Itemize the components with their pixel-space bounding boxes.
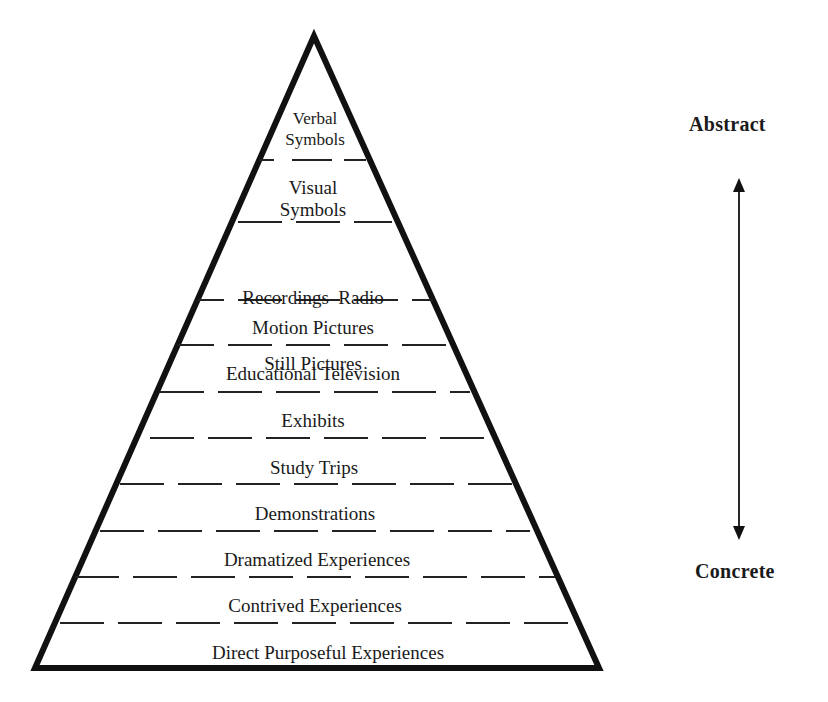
level-label-line: Demonstrations (255, 503, 375, 525)
abstract-label: Abstract (689, 113, 766, 136)
level-label-line: Visual (280, 177, 347, 199)
level-label-line: Study Trips (270, 457, 358, 479)
level-verbal-symbols: Verbal Symbols (285, 108, 345, 150)
level-label-line: Symbols (280, 199, 347, 221)
arrow-up-icon (733, 178, 745, 192)
level-label-line: Dramatized Experiences (224, 549, 410, 571)
level-label-line: Educational Television (226, 363, 400, 385)
concrete-label: Concrete (695, 560, 775, 583)
level-label-line: Motion Pictures (252, 317, 374, 339)
level-label-line: Exhibits (281, 410, 344, 432)
level-study-trips: Study Trips (270, 457, 358, 479)
level-label-line: Contrived Experiences (228, 595, 402, 617)
arrow-down-icon (733, 526, 745, 540)
level-educational-television: Educational Television (226, 363, 400, 385)
level-label-line: Verbal (285, 108, 345, 129)
level-motion-pictures: Motion Pictures (252, 317, 374, 339)
level-demonstrations: Demonstrations (255, 503, 375, 525)
level-direct-purposeful-experiences: Direct Purposeful Experiences (212, 642, 444, 664)
level-label-line: Symbols (285, 129, 345, 150)
cone-of-experience-diagram (0, 0, 828, 702)
level-contrived-experiences: Contrived Experiences (228, 595, 402, 617)
abstract-concrete-arrow (733, 178, 745, 540)
level-exhibits: Exhibits (281, 410, 344, 432)
level-label-line: Direct Purposeful Experiences (212, 642, 444, 664)
level-visual-symbols: Visual Symbols (280, 177, 347, 221)
level-dramatized-experiences: Dramatized Experiences (224, 549, 410, 571)
level-label-line: Recordings Radio (242, 287, 383, 309)
